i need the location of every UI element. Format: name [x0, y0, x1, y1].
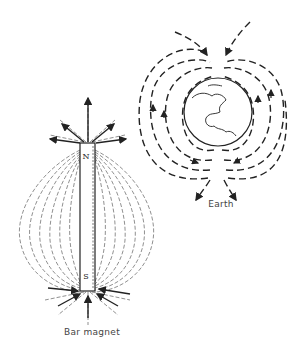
south-pole-label: S	[83, 272, 88, 281]
north-pole-label: N	[83, 152, 90, 161]
earth-label: Earth	[208, 199, 234, 209]
earth-globe	[184, 78, 252, 146]
bar-magnet-label: Bar magnet	[64, 327, 120, 337]
diagram-drawing	[0, 0, 289, 348]
magnetic-field-diagram: N S Earth Bar magnet	[0, 0, 289, 348]
bar-magnet	[80, 143, 95, 291]
